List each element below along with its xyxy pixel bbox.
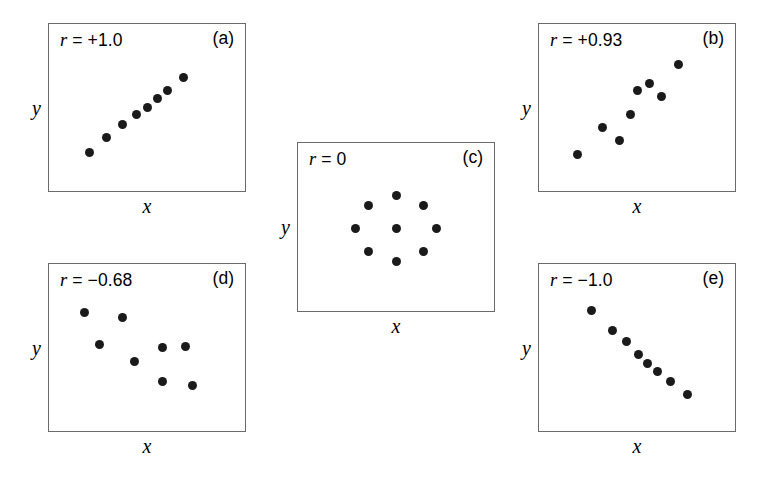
y-axis-label: y [522, 338, 531, 358]
data-point [118, 120, 127, 129]
scatter-panel-d: r = −0.68(d)yx [48, 263, 246, 432]
data-point [657, 92, 666, 101]
correlation-value-label: r = −1.0 [550, 271, 613, 290]
data-point [143, 103, 152, 112]
data-point [188, 381, 197, 390]
scatter-panel-b: r = +0.93(b)yx [538, 23, 736, 192]
data-point [153, 94, 162, 103]
r-value-text: = 0 [321, 149, 346, 169]
x-axis-label: x [143, 196, 152, 216]
r-value-text: = −0.68 [72, 270, 132, 290]
correlation-scatterplot-figure: r = +1.0(a)yxr = +0.93(b)yxr = 0(c)yxr =… [0, 0, 772, 480]
plot-area: r = 0(c) [297, 142, 495, 312]
scatter-panel-e: r = −1.0(e)yx [538, 263, 736, 432]
panel-letter: (c) [463, 149, 483, 167]
x-axis-label: x [143, 436, 152, 456]
correlation-value-label: r = +0.93 [550, 31, 622, 50]
data-point [615, 136, 624, 145]
data-point [102, 133, 111, 142]
data-point [598, 123, 607, 132]
correlation-value-label: r = 0 [309, 150, 346, 169]
data-point [392, 224, 401, 233]
y-axis-label: y [281, 217, 290, 237]
data-point [163, 86, 172, 95]
data-point [132, 110, 141, 119]
y-axis-label: y [522, 98, 531, 118]
correlation-value-label: r = +1.0 [60, 31, 123, 50]
data-point [364, 201, 373, 210]
panel-letter: (a) [213, 30, 234, 48]
data-point [626, 110, 635, 119]
data-point [392, 257, 401, 266]
data-point [364, 247, 373, 256]
data-point [666, 377, 675, 386]
data-point [158, 343, 167, 352]
data-point [653, 367, 662, 376]
data-point [419, 247, 428, 256]
data-point [683, 390, 692, 399]
r-symbol: r [60, 30, 67, 50]
plot-area: r = +0.93(b) [538, 23, 736, 192]
panel-letter: (d) [213, 270, 234, 288]
panel-letter: (e) [703, 270, 724, 288]
y-axis-label: y [32, 98, 41, 118]
correlation-value-label: r = −0.68 [60, 271, 132, 290]
data-point [158, 377, 167, 386]
plot-area: r = −1.0(e) [538, 263, 736, 432]
data-point [118, 313, 127, 322]
scatter-panel-a: r = +1.0(a)yx [48, 23, 246, 192]
r-value-text: = +0.93 [562, 30, 622, 50]
plot-area: r = −0.68(d) [48, 263, 246, 432]
r-symbol: r [550, 30, 557, 50]
data-point [432, 224, 441, 233]
r-symbol: r [550, 270, 557, 290]
data-point [587, 306, 596, 315]
x-axis-label: x [633, 436, 642, 456]
data-point [608, 326, 617, 335]
data-point [643, 359, 652, 368]
data-point [179, 73, 188, 82]
data-point [130, 357, 139, 366]
data-point [351, 224, 360, 233]
data-point [573, 150, 582, 159]
r-value-text: = −1.0 [562, 270, 612, 290]
data-point [645, 79, 654, 88]
r-value-text: = +1.0 [72, 30, 122, 50]
data-point [419, 201, 428, 210]
data-point [85, 148, 94, 157]
data-point [80, 308, 89, 317]
data-point [392, 191, 401, 200]
data-point [634, 350, 643, 359]
y-axis-label: y [32, 338, 41, 358]
x-axis-label: x [392, 316, 401, 336]
data-point [633, 86, 642, 95]
r-symbol: r [309, 149, 316, 169]
scatter-panel-c: r = 0(c)yx [297, 142, 495, 312]
x-axis-label: x [633, 196, 642, 216]
data-point [95, 340, 104, 349]
panel-letter: (b) [703, 30, 724, 48]
data-point [674, 60, 683, 69]
data-point [622, 337, 631, 346]
data-point [181, 342, 190, 351]
r-symbol: r [60, 270, 67, 290]
plot-area: r = +1.0(a) [48, 23, 246, 192]
